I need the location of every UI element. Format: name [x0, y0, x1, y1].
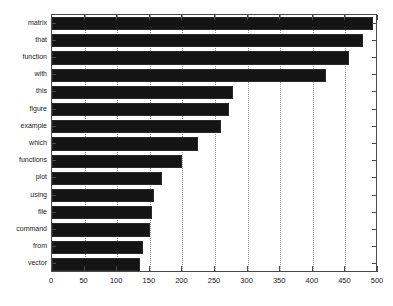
x-tick-200 [181, 266, 182, 272]
x-tick-top-450 [344, 15, 345, 20]
y-tick-function [51, 57, 56, 58]
y-tick-right-figure [372, 109, 377, 110]
y-tick-label-example: example [21, 122, 47, 130]
x-tick-350 [279, 266, 280, 272]
bar [52, 137, 198, 150]
y-tick-right-file [372, 212, 377, 213]
y-tick-right-that [372, 40, 377, 41]
x-tick-top-300 [247, 15, 248, 20]
bar [52, 51, 349, 64]
chart-figure: matrixthatfunctionwiththisfigureexamplew… [0, 0, 393, 306]
y-tick-label-matrix: matrix [28, 19, 47, 27]
y-tick-label-from: from [33, 242, 47, 250]
y-tick-right-which [372, 143, 377, 144]
y-tick-vector [51, 263, 56, 264]
y-tick-right-matrix [372, 23, 377, 24]
y-tick-label-functions: functions [19, 156, 47, 164]
y-tick-label-command: command [16, 225, 47, 233]
x-tick-300 [247, 266, 248, 272]
y-tick-right-with [372, 74, 377, 75]
bar [52, 189, 154, 202]
y-tick-right-using [372, 195, 377, 196]
y-tick-example [51, 126, 56, 127]
y-tick-right-functions [372, 160, 377, 161]
bar [52, 206, 152, 219]
x-tick-top-350 [279, 15, 280, 20]
x-tick-top-0 [51, 15, 52, 20]
x-tick-100 [116, 266, 117, 272]
x-tick-top-100 [116, 15, 117, 20]
y-tick-label-that: that [35, 36, 47, 44]
y-tick-label-figure: figure [29, 105, 47, 113]
bar [52, 241, 143, 254]
x-tick-400 [312, 266, 313, 272]
bar [52, 69, 326, 82]
x-tick-label-300: 300 [240, 276, 253, 285]
bar [52, 172, 162, 185]
bar [52, 34, 363, 47]
y-tick-right-plot [372, 177, 377, 178]
x-tick-500 [377, 266, 378, 272]
y-tick-file [51, 212, 56, 213]
y-tick-that [51, 40, 56, 41]
y-tick-right-command [372, 229, 377, 230]
y-tick-plot [51, 177, 56, 178]
bar [52, 17, 373, 30]
y-tick-with [51, 74, 56, 75]
x-tick-label-250: 250 [208, 276, 221, 285]
x-tick-label-500: 500 [371, 276, 384, 285]
y-tick-matrix [51, 23, 56, 24]
x-tick-250 [214, 266, 215, 272]
y-tick-label-function: function [22, 53, 47, 61]
y-tick-using [51, 195, 56, 196]
y-tick-right-function [372, 57, 377, 58]
y-tick-label-vector: vector [28, 259, 47, 267]
y-tick-right-example [372, 126, 377, 127]
bar [52, 258, 140, 271]
x-tick-150 [149, 266, 150, 272]
x-tick-top-150 [149, 15, 150, 20]
bar [52, 120, 221, 133]
x-tick-450 [344, 266, 345, 272]
y-tick-figure [51, 109, 56, 110]
y-tick-from [51, 246, 56, 247]
y-tick-label-file: file [38, 208, 47, 216]
x-tick-label-400: 400 [306, 276, 319, 285]
x-tick-top-50 [84, 15, 85, 20]
y-tick-label-plot: plot [36, 173, 47, 181]
y-tick-this [51, 91, 56, 92]
x-tick-top-500 [377, 15, 378, 20]
x-tick-top-200 [181, 15, 182, 20]
x-tick-top-400 [312, 15, 313, 20]
x-tick-50 [84, 266, 85, 272]
y-tick-label-with: with [35, 70, 47, 78]
x-tick-label-450: 450 [338, 276, 351, 285]
y-tick-functions [51, 160, 56, 161]
x-tick-label-350: 350 [273, 276, 286, 285]
bar [52, 86, 233, 99]
bar [52, 155, 182, 168]
x-tick-label-50: 50 [79, 276, 87, 285]
y-tick-right-this [372, 91, 377, 92]
x-tick-label-150: 150 [143, 276, 156, 285]
y-tick-label-which: which [29, 139, 47, 147]
bar [52, 223, 150, 236]
x-tick-0 [51, 266, 52, 272]
y-tick-command [51, 229, 56, 230]
y-tick-label-using: using [30, 191, 47, 199]
bar [52, 103, 229, 116]
x-tick-label-100: 100 [110, 276, 123, 285]
y-tick-right-from [372, 246, 377, 247]
x-tick-label-0: 0 [49, 276, 53, 285]
y-tick-label-this: this [36, 87, 47, 95]
x-tick-top-250 [214, 15, 215, 20]
plot-area [51, 14, 377, 272]
x-tick-label-200: 200 [175, 276, 188, 285]
y-tick-which [51, 143, 56, 144]
bars-layer [52, 15, 376, 271]
y-tick-right-vector [372, 263, 377, 264]
